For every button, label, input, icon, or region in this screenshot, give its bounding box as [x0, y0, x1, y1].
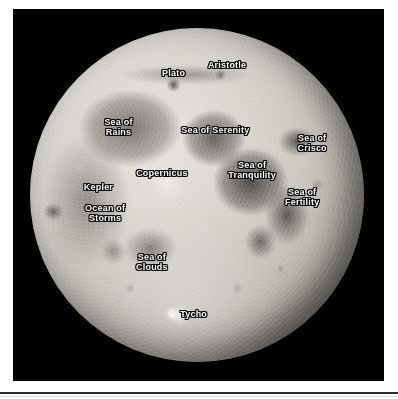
feature-label-ocean-of-storms: Ocean of Storms [85, 203, 125, 223]
feature-label-aristotle: Aristotle [208, 60, 246, 70]
moon-photograph-plate: PlatoAristotleSea of RainsSea of Serenit… [13, 9, 384, 381]
feature-label-sea-of-crisco: Sea of Crisco [298, 133, 327, 153]
feature-label-sea-of-fertility: Sea of Fertility [285, 187, 319, 207]
feature-label-sea-of-rains: Sea of Rains [104, 117, 132, 137]
feature-label-plato: Plato [162, 68, 185, 78]
feature-label-kepler: Kepler [84, 182, 113, 192]
bottom-rule-thin [0, 396, 398, 397]
figure-page: PlatoAristotleSea of RainsSea of Serenit… [0, 0, 398, 399]
feature-label-sea-of-tranquility: Sea of Tranquility [228, 160, 276, 180]
tycho-crater-marker [168, 310, 175, 317]
feature-label-sea-of-clouds: Sea of Clouds [136, 252, 168, 272]
moon-disc: PlatoAristotleSea of RainsSea of Serenit… [30, 28, 364, 362]
feature-label-sea-of-serenity: Sea of Serenity [181, 125, 249, 135]
feature-label-copernicus: Copernicus [136, 168, 188, 178]
feature-label-tycho: Tycho [180, 309, 207, 319]
bottom-rule [0, 392, 398, 394]
